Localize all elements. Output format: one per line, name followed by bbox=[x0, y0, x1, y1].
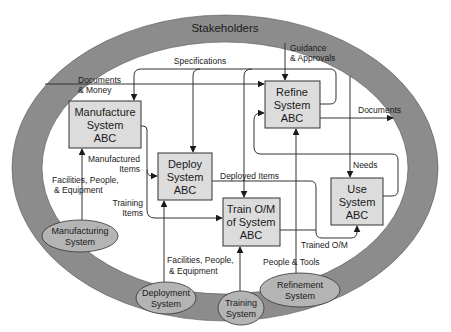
process-use[interactable]: Use System ABC bbox=[331, 178, 383, 225]
train-label-3: ABC bbox=[240, 229, 263, 241]
manufactured-items-label-1: Manufactured bbox=[88, 154, 140, 164]
deploy-facilities-label-1: Facilities, People, bbox=[167, 255, 234, 265]
documents-money-label-2: & Money bbox=[78, 85, 112, 95]
refine-label-1: Refine bbox=[276, 86, 308, 98]
process-refine[interactable]: Refine System ABC bbox=[265, 81, 320, 128]
deployment-label-2: System bbox=[151, 299, 181, 309]
process-deploy[interactable]: Deploy System ABC bbox=[158, 153, 212, 200]
enabler-refinement[interactable]: Refinement System bbox=[260, 273, 340, 307]
deploy-label-3: ABC bbox=[174, 184, 197, 196]
stakeholders-label: Stakeholders bbox=[191, 22, 258, 34]
enabler-training[interactable]: Training System bbox=[218, 291, 264, 325]
training-items-label-1: Training bbox=[113, 198, 144, 208]
refinement-label-2: System bbox=[285, 291, 315, 301]
manufactured-items-arrow bbox=[141, 126, 157, 176]
mfg-facilities-label-1: Facilities, People, bbox=[52, 175, 119, 185]
enabler-deployment[interactable]: Deployment System bbox=[136, 282, 196, 314]
deploy-label-2: System bbox=[167, 171, 204, 183]
process-manufacture[interactable]: Manufacture System ABC bbox=[69, 101, 141, 148]
use-label-3: ABC bbox=[346, 209, 369, 221]
deploy-facilities-label-2: & Equipment bbox=[169, 266, 218, 276]
documents-label: Documents bbox=[358, 105, 401, 115]
deployed-items-label: Deployed Items bbox=[220, 171, 279, 181]
mfg-facilities-label-2: & Equipment bbox=[54, 185, 103, 195]
manufacturing-label-2: System bbox=[65, 237, 95, 247]
manufactured-items-label-2: Items bbox=[119, 164, 140, 174]
guidance-label-1: Guidance bbox=[290, 43, 327, 53]
training-label-1: Training bbox=[225, 298, 257, 308]
training-items-label-2: Items bbox=[122, 208, 143, 218]
use-label-1: Use bbox=[347, 183, 367, 195]
specifications-to-deploy-arrow bbox=[193, 69, 200, 152]
refine-label-2: System bbox=[274, 99, 311, 111]
train-label-1: Train O/M bbox=[227, 203, 276, 215]
people-tools-label: People & Tools bbox=[263, 257, 320, 267]
manufacture-label-2: System bbox=[87, 119, 124, 131]
deployment-label-1: Deployment bbox=[142, 288, 191, 298]
refine-label-3: ABC bbox=[281, 112, 304, 124]
training-label-2: System bbox=[226, 309, 256, 319]
guidance-label-2: & Approvals bbox=[290, 53, 335, 63]
specifications-label: Specifications bbox=[174, 56, 226, 66]
refinement-label-1: Refinement bbox=[277, 280, 324, 290]
process-train[interactable]: Train O/M of System ABC bbox=[223, 198, 280, 246]
use-label-2: System bbox=[339, 196, 376, 208]
system-lifecycle-diagram: Stakeholders Manufact bbox=[0, 0, 451, 332]
needs-label: Needs bbox=[353, 160, 378, 170]
manufacture-label-3: ABC bbox=[94, 132, 117, 144]
documents-money-label-1: Documents bbox=[78, 75, 121, 85]
deploy-label-1: Deploy bbox=[168, 158, 203, 170]
trained-om-label: Trained O/M bbox=[301, 240, 348, 250]
enabler-manufacturing[interactable]: Manufacturing System bbox=[42, 220, 118, 252]
manufacture-label-1: Manufacture bbox=[74, 106, 135, 118]
manufacturing-label-1: Manufacturing bbox=[51, 226, 108, 236]
train-label-2: of System bbox=[227, 216, 276, 228]
